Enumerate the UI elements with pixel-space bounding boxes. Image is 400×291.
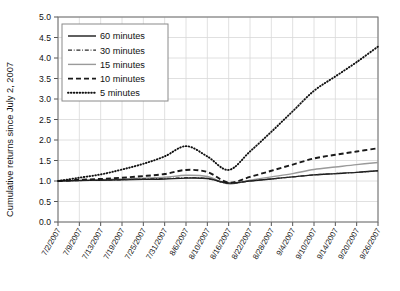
y-axis-title: Cumulative returns since July 2, 2007 [5, 62, 15, 217]
legend: 60 minutes30 minutes15 minutes10 minutes… [62, 24, 168, 101]
y-tick-label: 0.5 [39, 197, 51, 207]
y-tick-label: 2.5 [39, 115, 51, 125]
cumulative-returns-line-chart: Cumulative returns since July 2, 2007 0.… [0, 0, 400, 291]
legend-label-15-minutes: 15 minutes [100, 60, 145, 70]
y-tick-label: 0.0 [39, 217, 51, 227]
legend-label-30-minutes: 30 minutes [100, 46, 145, 56]
y-tick-label: 2.0 [39, 135, 51, 145]
legend-label-10-minutes: 10 minutes [100, 74, 145, 84]
y-tick-label: 4.0 [39, 53, 51, 63]
y-tick-label: 1.5 [39, 156, 51, 166]
y-tick-label: 4.5 [39, 33, 51, 43]
y-tick-label: 5.0 [39, 12, 51, 22]
legend-label-60-minutes: 60 minutes [100, 31, 145, 41]
legend-label-5-minutes: 5 minutes [100, 88, 140, 98]
y-tick-label: 3.0 [39, 94, 51, 104]
y-axis-title-text: Cumulative returns since July 2, 2007 [5, 62, 15, 217]
y-tick-label: 1.0 [39, 176, 51, 186]
y-tick-label: 3.5 [39, 74, 51, 84]
